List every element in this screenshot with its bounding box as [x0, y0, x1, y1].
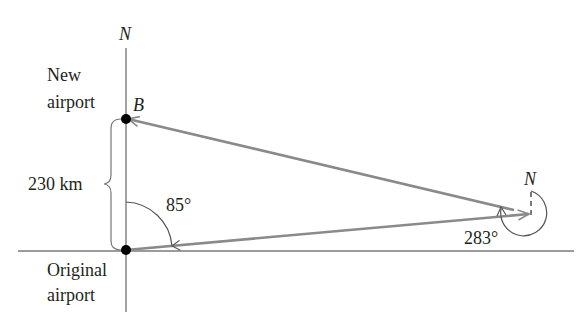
original-airport-label-2: airport [47, 285, 95, 305]
point-b-label: B [133, 95, 144, 115]
north-label-top: N [118, 24, 132, 44]
distance-brace [104, 119, 121, 250]
original-airport-label-1: Original [47, 260, 107, 280]
angle-85-label: 85° [166, 195, 191, 215]
bearing-diagram: N N B New airport Original airport 230 k… [0, 0, 587, 322]
angle-283-label: 283° [464, 228, 498, 248]
new-airport-dot [121, 114, 131, 124]
new-airport-label-1: New [47, 65, 81, 85]
north-label-right: N [523, 169, 537, 189]
original-airport-dot [121, 245, 131, 255]
distance-label: 230 km [28, 174, 83, 194]
new-airport-label-2: airport [47, 92, 95, 112]
